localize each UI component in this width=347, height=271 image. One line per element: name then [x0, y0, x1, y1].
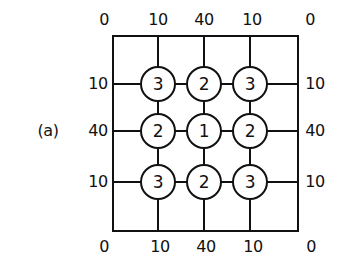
node-value: 2	[199, 76, 209, 92]
bottom-value: 10	[150, 239, 169, 255]
figure-label: (a)	[38, 123, 59, 139]
bottom-value: 0	[99, 239, 109, 255]
node-value: 3	[245, 174, 255, 190]
left-value: 10	[88, 174, 107, 190]
node-value: 2	[199, 174, 209, 190]
right-value: 40	[305, 123, 324, 139]
top-value: 0	[305, 12, 315, 28]
bottom-value: 10	[243, 239, 262, 255]
top-value: 10	[148, 12, 167, 28]
bottom-value: 0	[306, 239, 316, 255]
node-value: 2	[245, 123, 255, 139]
top-value: 10	[242, 12, 261, 28]
node-value: 3	[153, 76, 163, 92]
top-value: 0	[99, 12, 109, 28]
left-value: 10	[88, 76, 107, 92]
left-value: 40	[88, 123, 107, 139]
top-value: 40	[194, 12, 213, 28]
node-value: 2	[153, 123, 163, 139]
right-value: 10	[305, 76, 324, 92]
node-value: 3	[245, 76, 255, 92]
bottom-value: 40	[196, 239, 215, 255]
right-value: 10	[305, 174, 324, 190]
node-value: 3	[153, 174, 163, 190]
node-value: 1	[199, 123, 209, 139]
